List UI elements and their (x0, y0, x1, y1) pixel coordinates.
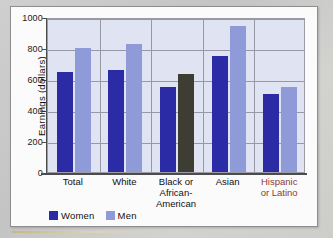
legend-item-men[interactable]: Men (106, 210, 137, 221)
x-axis-label-4: Hispanic or Latino (253, 176, 305, 198)
legend-swatch-men (106, 211, 115, 220)
chart-legend: Women Men (49, 210, 137, 221)
plot-area (47, 18, 305, 173)
figure-card: 1000 800 600 400 200 0 Earnings (dollars… (10, 6, 318, 227)
legend-label-women: Women (61, 210, 95, 221)
legend-label-men: Men (118, 210, 137, 221)
x-axis-label-1: White (99, 176, 151, 187)
x-axis-line (41, 173, 307, 175)
y-axis-title-holder: Earnings (dollars) (27, 18, 28, 173)
y-axis-title: Earnings (dollars) (36, 36, 47, 156)
bar-women-4[interactable] (263, 94, 279, 172)
x-axis-label-2: Black or African- American (150, 176, 202, 209)
bar-men-4[interactable] (281, 87, 297, 172)
x-axis-label-3: Asian (202, 176, 254, 187)
legend-swatch-women (49, 211, 58, 220)
bar-group (48, 19, 304, 172)
x-axis-label-0: Total (47, 176, 99, 187)
legend-item-women[interactable]: Women (49, 210, 95, 221)
y-tick-label-1000: 1000 (22, 13, 43, 23)
plot-wrapper (47, 18, 305, 173)
page-background: 1000 800 600 400 200 0 Earnings (dollars… (0, 0, 333, 238)
